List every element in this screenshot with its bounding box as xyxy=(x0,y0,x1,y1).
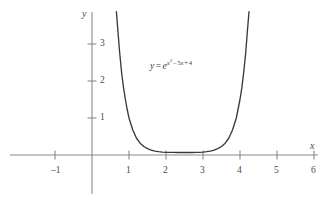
equation-equals: = xyxy=(154,61,162,71)
x-tick-label-5: 5 xyxy=(274,166,279,176)
equation-exponent: x2–5x+4 xyxy=(167,59,192,66)
y-tick-label-3: 3 xyxy=(100,39,105,49)
equation-annotation: y=ex2–5x+4 xyxy=(150,61,192,72)
x-axis-label: x xyxy=(310,141,314,151)
curve-exponential-quadratic xyxy=(116,12,249,153)
y-tick-label-1: 1 xyxy=(100,113,105,123)
y-axis-label: y xyxy=(82,9,86,19)
x-tick-label-1: 1 xyxy=(126,166,131,176)
y-tick-label-2: 2 xyxy=(100,76,105,86)
x-tick-label-2: 2 xyxy=(163,166,168,176)
figure-plot-exponential-quadratic: –1 1 2 3 4 5 6 1 2 3 x y y=ex2–5x+4 xyxy=(0,0,327,206)
x-tick-label-6: 6 xyxy=(311,166,316,176)
x-tick-label-3: 3 xyxy=(200,166,205,176)
x-tick-label-4: 4 xyxy=(237,166,242,176)
x-tick-label--1: –1 xyxy=(51,166,61,176)
equation-exp-constant: 4 xyxy=(189,59,192,66)
